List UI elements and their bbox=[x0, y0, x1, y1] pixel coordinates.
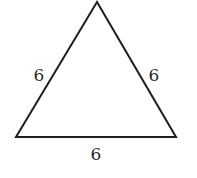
bottom-side-label: 6 bbox=[91, 144, 102, 164]
left-side-label: 6 bbox=[34, 65, 45, 85]
triangle-diagram: 6 6 6 bbox=[0, 0, 197, 178]
right-side-label: 6 bbox=[149, 65, 160, 85]
